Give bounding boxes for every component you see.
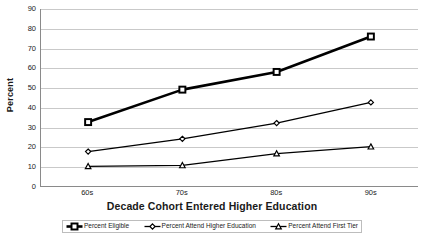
legend-label: Percent Eligible (84, 223, 129, 230)
y-axis-tick-label: 30 (28, 124, 36, 132)
data-point-marker (149, 224, 154, 229)
series-line (88, 102, 371, 151)
y-axis-tick-label: 70 (28, 45, 36, 53)
data-point-marker (274, 69, 280, 75)
data-point-marker (179, 87, 185, 93)
y-axis-title-text: Percent (5, 78, 15, 112)
data-point-marker (368, 100, 373, 105)
series-line (88, 37, 371, 123)
y-axis-tick-labels: 0102030405060708090 (16, 0, 38, 190)
data-point-marker (368, 144, 374, 149)
data-point-marker (274, 120, 279, 125)
legend-item: Percent Eligible (66, 222, 129, 231)
y-axis-tick-label: 60 (28, 65, 36, 73)
y-axis-tick-label: 0 (32, 183, 36, 191)
legend-marker-triangle-icon (270, 222, 287, 231)
legend-marker-diamond-icon (144, 222, 161, 231)
legend-item: Percent Attend First Tier (270, 222, 358, 231)
data-point-marker (72, 224, 78, 230)
data-point-marker (85, 164, 91, 169)
data-point-marker (180, 136, 185, 141)
data-point-marker (368, 34, 374, 40)
series-triangle (85, 144, 373, 169)
chart-legend: Percent EligiblePercent Attend Higher Ed… (62, 220, 362, 233)
data-point-marker (276, 224, 282, 229)
legend-item: Percent Attend Higher Education (144, 222, 256, 231)
x-axis-tick-label: 60s (81, 189, 93, 197)
x-axis-title: Decade Cohort Entered Higher Education (0, 200, 424, 212)
series-layer (41, 9, 418, 186)
legend-marker-square-icon (66, 222, 83, 231)
y-axis-tick-label: 80 (28, 25, 36, 33)
chart-figure: Percent 0102030405060708090 60s70s80s90s… (0, 0, 424, 243)
x-axis-tick-label: 90s (365, 189, 377, 197)
y-axis-tick-label: 20 (28, 144, 36, 152)
series-line (88, 147, 371, 167)
legend-label: Percent Attend Higher Education (162, 223, 256, 230)
data-point-marker (180, 163, 186, 168)
x-axis-tick-label: 70s (176, 189, 188, 197)
data-point-marker (86, 149, 91, 154)
y-axis-tick-label: 50 (28, 84, 36, 92)
data-point-marker (85, 119, 91, 125)
plot-area (40, 9, 418, 187)
y-axis-tick-label: 10 (28, 163, 36, 171)
data-point-marker (274, 151, 280, 156)
y-axis-tick-label: 40 (28, 104, 36, 112)
x-axis-tick-label: 80s (270, 189, 282, 197)
legend-label: Percent Attend First Tier (288, 223, 358, 230)
y-axis-tick-label: 90 (28, 5, 36, 13)
